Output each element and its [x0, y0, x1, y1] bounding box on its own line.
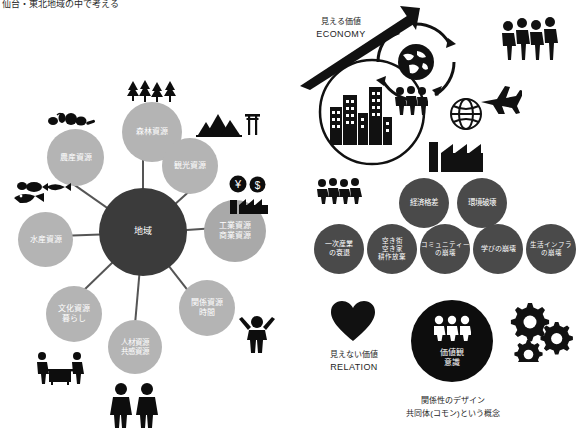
airplane-icon — [480, 84, 522, 114]
factory-icon — [230, 198, 268, 214]
node-infrastructure-label-1: 生活インフラ — [530, 241, 572, 249]
node-economic-gap[interactable]: 経済格差 — [399, 178, 449, 228]
bottom-caption-line-2: 共同体(コモン)という概念 — [385, 408, 521, 421]
node-culture-label-1: 文化資源 — [58, 304, 90, 314]
node-economic-gap-label: 経済格差 — [410, 198, 438, 207]
trees-icon — [126, 79, 178, 103]
relation-caption-jp: 見えない価値 — [313, 349, 395, 361]
node-center-region[interactable]: 地域 — [99, 188, 187, 276]
node-relation-label-2: 時間 — [199, 308, 215, 318]
people-group-icon — [394, 85, 428, 115]
node-human-label-2: 共感資源 — [121, 347, 149, 356]
node-relation-label-1: 関係資源 — [191, 298, 223, 308]
people-talking-icon — [33, 350, 89, 385]
people-row-icon — [316, 178, 362, 204]
factory-large-icon — [429, 142, 483, 172]
dollar-coin-icon: $ — [249, 176, 266, 193]
mountain-torii-icon — [196, 110, 260, 138]
top-strip-text: 仙台・東北地域の中で考える — [2, 0, 119, 10]
top-cropped-strip: 仙台・東北地域の中で考える — [0, 0, 583, 10]
node-primary-industry-label-2: の衰退 — [329, 249, 350, 258]
node-tourism[interactable]: 観光資源 — [162, 138, 218, 194]
node-agriculture-label: 農産資源 — [60, 153, 92, 163]
node-environment-destruction[interactable]: 環境破壊 — [457, 178, 507, 228]
node-industry-label-2: 商業資源 — [219, 231, 251, 241]
three-people-icon — [433, 315, 471, 344]
city-buildings-icon — [330, 85, 392, 145]
node-values-label-1: 価値観 — [440, 348, 464, 358]
relation-caption-en: RELATION — [313, 361, 395, 375]
node-primary-industry-label-1: 一次産業 — [325, 240, 353, 249]
node-forest-label: 森林資源 — [136, 127, 168, 137]
node-primary-industry-decline[interactable]: 一次産業 の衰退 — [314, 224, 364, 274]
node-community-collapse[interactable]: コミュニティー の崩壊 — [420, 224, 470, 274]
diagram-canvas: 仙台・東北地域の中で考える 地域 森林資源 — [0, 0, 583, 438]
node-values-consciousness[interactable]: 価値観 意識 — [411, 300, 493, 382]
node-vacancy-label-3: 耕作放棄 — [378, 253, 406, 261]
two-people-icon — [107, 382, 161, 428]
node-human-empathy[interactable]: 人材資源 共感資源 — [108, 320, 162, 374]
node-center-region-label: 地域 — [134, 226, 152, 237]
fish-shrimp-icon — [12, 180, 76, 210]
node-vacancy-label-1: 空き街 — [382, 237, 403, 245]
relation-caption: 見えない価値 RELATION — [313, 349, 395, 375]
bottom-caption: 関係性のデザイン 共同体(コモン)という概念 — [385, 395, 521, 421]
node-industry-label-1: 工業資源 — [219, 221, 251, 231]
node-tourism-label: 観光資源 — [174, 161, 206, 171]
node-fishery-label: 水産資源 — [30, 235, 62, 245]
node-community-label-1: コミュニティー — [421, 241, 470, 249]
node-environment-label: 環境破壊 — [468, 198, 496, 207]
node-culture-label-2: 暮らし — [62, 314, 86, 324]
bottom-caption-line-1: 関係性のデザイン — [385, 395, 521, 408]
node-culture-living[interactable]: 文化資源 暮らし — [46, 286, 102, 342]
node-learning-collapse[interactable]: 学びの崩壊 — [473, 224, 523, 274]
globe-grid-icon — [449, 97, 483, 131]
node-values-label-2: 意識 — [444, 358, 460, 368]
node-fishery[interactable]: 水産資源 — [18, 212, 73, 267]
yen-coin-icon: ¥ — [229, 175, 247, 193]
node-relation-time[interactable]: 関係資源 時間 — [179, 280, 235, 336]
svg-text:¥: ¥ — [234, 178, 242, 190]
node-community-label-2: の崩壊 — [435, 249, 456, 257]
people-crowd-icon — [500, 16, 562, 62]
svg-text:$: $ — [255, 180, 261, 191]
node-infrastructure-collapse[interactable]: 生活インフラ の崩壊 — [526, 224, 576, 274]
node-infrastructure-label-2: の崩壊 — [541, 249, 562, 257]
node-human-label-1: 人材資源 — [121, 338, 149, 347]
node-vacancy-label-2: 空き家 — [382, 245, 403, 253]
heart-icon — [330, 300, 376, 346]
vegetables-icon — [47, 112, 95, 130]
node-learning-label: 学びの崩壊 — [481, 245, 516, 254]
person-cheering-icon — [237, 311, 277, 353]
node-agriculture[interactable]: 農産資源 — [47, 129, 104, 186]
gears-icon — [508, 300, 574, 366]
node-vacancy[interactable]: 空き街 空き家 耕作放棄 — [367, 224, 417, 274]
